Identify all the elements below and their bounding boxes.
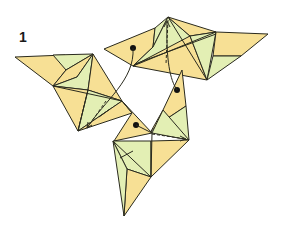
bottom-lower-tip: [124, 169, 151, 216]
top-right-flap-front: [213, 32, 268, 56]
origami-diagram: [0, 0, 286, 236]
top-right-flap-back: [207, 56, 241, 80]
bottom-lower-right: [151, 140, 189, 177]
